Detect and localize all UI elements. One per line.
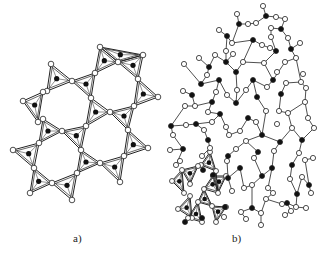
- oxygen-node-white: [121, 153, 127, 159]
- oxygen-node-white: [107, 109, 113, 115]
- silicon-node-black: [246, 116, 251, 121]
- oxygen-node-white: [35, 119, 41, 125]
- oxygen-node-white: [274, 69, 279, 74]
- oxygen-node-white: [183, 122, 188, 127]
- oxygen-node-white: [69, 78, 75, 84]
- bond-line: [243, 62, 264, 63]
- oxygen-node-white: [180, 88, 185, 93]
- oxygen-node-white: [196, 55, 201, 60]
- oxygen-node-white: [289, 125, 294, 130]
- oxygen-node-white: [241, 185, 246, 190]
- silicon-node-black: [102, 58, 107, 63]
- oxygen-node-white: [59, 128, 65, 134]
- silicon-node-black: [207, 160, 212, 165]
- panel-a-crystalline-network: [10, 44, 161, 203]
- oxygen-node-white: [263, 196, 268, 201]
- oxygen-node-white: [49, 180, 55, 186]
- silicon-node-black: [200, 216, 205, 221]
- oxygen-node-white: [202, 187, 207, 192]
- oxygen-node-white: [69, 197, 75, 203]
- silicon-node-black: [216, 209, 221, 214]
- oxygen-node-white: [205, 109, 210, 114]
- silicon-node-black: [210, 182, 215, 187]
- oxygen-node-white: [282, 59, 287, 64]
- oxygen-node-white: [213, 89, 218, 94]
- oxygen-node-white: [97, 44, 103, 50]
- oxygen-node-white: [233, 146, 238, 151]
- oxygen-node-white: [282, 212, 287, 217]
- oxygen-node-white: [216, 27, 221, 32]
- silicon-node-black: [226, 154, 231, 159]
- panel-b-random-network: [167, 3, 316, 227]
- oxygen-node-white: [249, 182, 254, 187]
- silicon-node-black: [211, 173, 216, 178]
- silicon-node-black: [206, 138, 211, 143]
- silicon-node-black: [32, 102, 37, 107]
- oxygen-node-white: [243, 216, 248, 221]
- silicon-node-black: [130, 63, 135, 68]
- oxygen-node-white: [265, 185, 270, 190]
- bond-line: [296, 58, 301, 82]
- oxygen-node-white: [303, 85, 308, 90]
- oxygen-node-white: [298, 79, 303, 84]
- silicon-node-black: [121, 113, 126, 118]
- oxygen-node-white: [10, 147, 16, 153]
- bond-line: [184, 64, 201, 84]
- oxygen-node-white: [74, 170, 80, 176]
- oxygen-node-white: [302, 157, 307, 162]
- bond-line: [288, 102, 305, 113]
- oxygen-node-white: [303, 205, 308, 210]
- oxygen-node-white: [177, 158, 182, 163]
- panel-a-label: a): [73, 232, 82, 244]
- oxygen-node-white: [135, 76, 141, 82]
- silicon-node-black: [141, 91, 146, 96]
- oxygen-node-white: [302, 99, 307, 104]
- oxygen-node-white: [261, 60, 266, 65]
- oxygen-node-white: [268, 25, 273, 30]
- oxygen-node-white: [229, 188, 234, 193]
- oxygen-node-white: [308, 190, 313, 195]
- oxygen-node-white: [223, 124, 228, 129]
- oxygen-node-white: [258, 222, 263, 227]
- silicon-node-black: [255, 95, 260, 100]
- silicon-node-black: [45, 128, 50, 133]
- bond-line: [232, 24, 239, 43]
- oxygen-node-white: [279, 201, 284, 206]
- silicon-node-black: [238, 166, 243, 171]
- silicon-node-black: [194, 122, 199, 127]
- oxygen-node-white: [40, 89, 46, 95]
- oxygen-node-white: [243, 87, 248, 92]
- oxygen-node-white: [196, 164, 201, 169]
- silicon-node-black: [199, 82, 204, 87]
- oxygen-node-white: [285, 110, 290, 115]
- oxygen-node-white: [196, 200, 201, 205]
- oxygen-node-white: [311, 125, 316, 130]
- silicon-node-black: [279, 27, 284, 32]
- bond-line: [243, 40, 253, 62]
- silicon-node-black: [183, 220, 188, 225]
- oxygen-node-white: [259, 42, 264, 47]
- oxygen-node-white: [287, 176, 292, 181]
- oxygen-node-white: [204, 72, 209, 77]
- oxygen-node-white: [192, 103, 197, 108]
- oxygen-node-white: [170, 132, 175, 137]
- oxygen-node-white: [245, 21, 250, 26]
- silicon-node-black: [169, 124, 174, 129]
- oxygen-node-white: [36, 140, 42, 146]
- oxygen-node-white: [199, 153, 204, 158]
- silicon-node-black: [112, 164, 117, 169]
- silicon-node-black: [307, 183, 312, 188]
- oxygen-node-white: [282, 16, 287, 21]
- oxygen-node-white: [180, 168, 185, 173]
- silicon-node-black: [256, 150, 261, 155]
- silicon-node-black: [118, 52, 123, 57]
- oxygen-node-white: [31, 165, 37, 171]
- oxygen-node-white: [48, 61, 54, 67]
- oxygen-node-white: [92, 70, 98, 76]
- oxygen-node-white: [214, 220, 219, 225]
- oxygen-node-white: [297, 40, 302, 45]
- silicon-node-black: [260, 174, 265, 179]
- oxygen-node-white: [270, 190, 275, 195]
- silicon-node-black: [285, 201, 290, 206]
- oxygen-node-white: [226, 132, 231, 137]
